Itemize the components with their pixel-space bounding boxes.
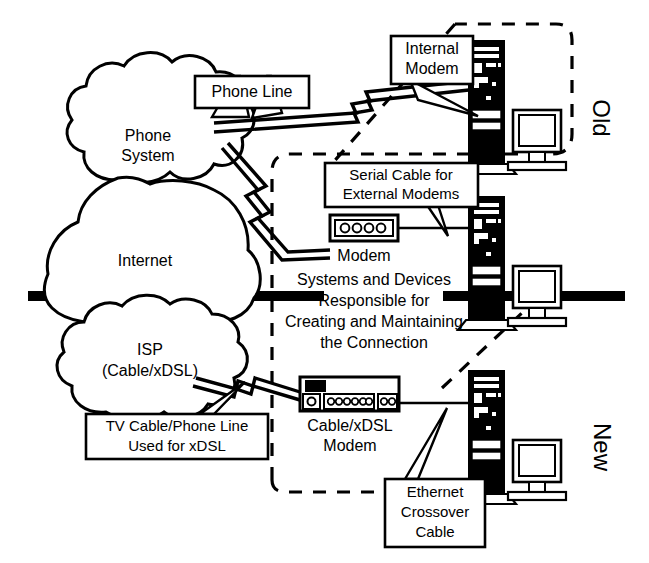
tower-body: [468, 370, 505, 494]
monitor-neck: [529, 482, 545, 492]
modem-label: Modem: [337, 247, 390, 264]
modem-led: [353, 224, 362, 233]
note-line-2: Responsible for: [318, 292, 430, 309]
tower-vent: [486, 219, 496, 223]
cable-modem-port: [328, 398, 335, 405]
tower-led: [486, 252, 491, 256]
phone-line-label: Phone Line: [212, 83, 293, 100]
tower-led: [498, 63, 501, 67]
monitor-stand: [508, 318, 566, 326]
tower-slot: [474, 377, 499, 381]
network-diagram: Phone System Internet ISP (Cable/xDSL): [0, 0, 649, 563]
ethernet-label-line-2: Crossover: [401, 503, 469, 520]
cable-modem-port: [308, 398, 316, 406]
tower-vent: [474, 393, 482, 403]
monitor-screen: [519, 271, 555, 302]
tower-slot: [474, 210, 499, 214]
tower-vent: [474, 77, 479, 88]
tower-drive-bay: [472, 278, 501, 286]
modem-led: [365, 224, 374, 233]
isp-line-1: ISP: [137, 341, 163, 358]
new-section-label: New: [589, 423, 616, 472]
cable-modem-port: [366, 398, 373, 405]
note-line-4: the Connection: [320, 334, 428, 351]
computer-old-external-modem: [458, 196, 566, 330]
internet-label: Internet: [118, 252, 173, 269]
cable-modem-port: [344, 398, 351, 405]
cable-modem-label-line-1: Cable/xDSL: [307, 417, 392, 434]
tower-body: [468, 196, 505, 320]
monitor-stand: [508, 492, 566, 500]
tower-led: [492, 238, 496, 242]
cable-modem-display: [305, 380, 326, 392]
tv-cable-label-line-2: Used for xDSL: [128, 437, 226, 454]
tower-led: [492, 412, 496, 416]
callout-tail: [405, 408, 447, 479]
cable-modem-port: [389, 398, 396, 405]
internal-modem-label-line-2: Modem: [405, 60, 458, 77]
cable-modem-port: [381, 398, 388, 405]
cable-modem-port: [336, 398, 343, 405]
phone-system-line-2: System: [121, 147, 174, 164]
serial-cable-label-line-1: Serial Cable for: [349, 166, 452, 183]
isp-line-2: (Cable/xDSL): [102, 362, 198, 379]
tower-led: [492, 82, 496, 86]
tower-vent: [486, 393, 496, 397]
responsibility-note: Systems and Devices Responsible for Crea…: [285, 271, 463, 351]
phone-system-line-1: Phone: [125, 127, 171, 144]
tower-led: [498, 393, 501, 397]
tower-vent: [474, 407, 479, 418]
tower-vent: [474, 219, 482, 229]
tower-drive-bay: [472, 122, 501, 130]
tower-vent: [474, 233, 479, 244]
cable-xdsl-modem-device: [300, 377, 399, 411]
note-line-3: Creating and Maintaining: [285, 313, 463, 330]
tower-led: [486, 96, 491, 100]
tower-drive-bay: [472, 266, 501, 275]
tower-slot: [474, 47, 499, 51]
monitor-neck: [529, 308, 545, 318]
tower-vent: [474, 63, 482, 73]
tv-cable-label-line-1: TV Cable/Phone Line: [106, 417, 249, 434]
tower-vent: [486, 63, 496, 67]
serial-cable-label-line-2: External Modems: [343, 185, 460, 202]
cable-modem-label-line-2: Modem: [323, 437, 376, 454]
tower-slot: [474, 54, 499, 58]
tower-drive-bay: [472, 440, 501, 449]
modem-led: [341, 224, 350, 233]
callout-tail: [410, 80, 478, 116]
monitor-neck: [529, 152, 545, 162]
modem-led: [377, 224, 386, 233]
monitor-screen: [519, 115, 555, 146]
monitor-stand: [508, 162, 566, 170]
tower-led: [498, 219, 501, 223]
monitor-screen: [519, 445, 555, 476]
tower-led: [486, 426, 491, 430]
tower-drive-bay: [472, 452, 501, 460]
ethernet-label-line-3: Cable: [415, 523, 454, 540]
internal-modem-callout: Internal Modem: [391, 36, 478, 116]
diagram-canvas: Phone System Internet ISP (Cable/xDSL): [0, 0, 649, 563]
callout-tail: [427, 205, 448, 236]
ethernet-label-line-1: Ethernet: [407, 483, 465, 500]
external-modem-device: [330, 215, 398, 241]
old-section-label: Old: [588, 99, 615, 136]
tower-slot: [474, 384, 499, 388]
cable-modem-port: [352, 398, 359, 405]
internal-modem-label-line-1: Internal: [405, 40, 458, 57]
note-line-1: Systems and Devices: [297, 271, 451, 288]
